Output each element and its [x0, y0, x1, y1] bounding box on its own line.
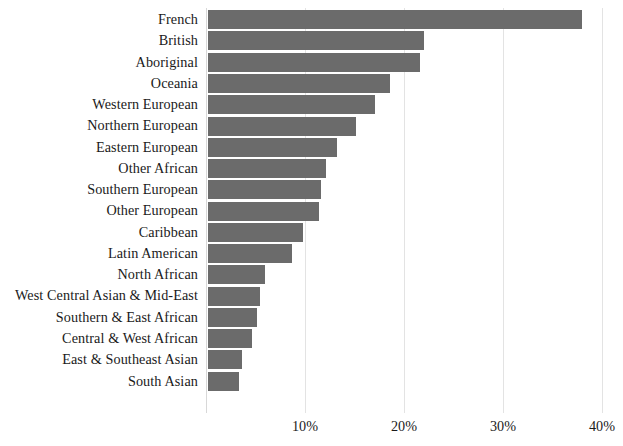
bar[interactable] — [208, 95, 375, 114]
category-label: Southern European — [87, 179, 206, 200]
category-label: East & Southeast Asian — [62, 349, 206, 370]
bar-row: Latin American — [0, 243, 623, 264]
bar[interactable] — [208, 308, 257, 327]
bar-row: West Central Asian & Mid-East — [0, 285, 623, 306]
category-label: Other European — [106, 200, 206, 221]
bar[interactable] — [208, 265, 265, 284]
bar-row: British — [0, 30, 623, 51]
bar-row: Other European — [0, 200, 623, 221]
bar-row: Caribbean — [0, 222, 623, 243]
category-label: Aboriginal — [136, 52, 206, 73]
category-label: North African — [118, 264, 207, 285]
category-label: Oceania — [151, 73, 206, 94]
bar-row: North African — [0, 264, 623, 285]
bar-row: Southern & East African — [0, 307, 623, 328]
category-label: Caribbean — [139, 222, 206, 243]
bar-row: Other African — [0, 158, 623, 179]
category-label: Eastern European — [96, 137, 206, 158]
bar[interactable] — [208, 117, 356, 136]
bar-row: Northern European — [0, 115, 623, 136]
category-label: British — [159, 30, 206, 51]
bar-row: South Asian — [0, 371, 623, 392]
category-label: West Central Asian & Mid-East — [15, 285, 206, 306]
x-tick-label: 20% — [391, 418, 417, 435]
bar[interactable] — [208, 244, 292, 263]
bar[interactable] — [208, 223, 303, 242]
bar[interactable] — [208, 287, 260, 306]
bar-row: Eastern European — [0, 137, 623, 158]
bar-rows-group: FrenchBritishAboriginalOceaniaWestern Eu… — [0, 9, 623, 392]
x-tick-label: 40% — [589, 418, 615, 435]
bar[interactable] — [208, 202, 319, 221]
bar-row: East & Southeast Asian — [0, 349, 623, 370]
bar-row: Western European — [0, 94, 623, 115]
bar[interactable] — [208, 350, 242, 369]
bar[interactable] — [208, 159, 326, 178]
x-tick-label: 30% — [490, 418, 516, 435]
bar[interactable] — [208, 10, 582, 29]
category-label: Western European — [92, 94, 206, 115]
bar-row: Central & West African — [0, 328, 623, 349]
bar[interactable] — [208, 372, 239, 391]
bar[interactable] — [208, 138, 337, 157]
x-axis-tick-labels: 10%20%30%40% — [0, 418, 623, 444]
bar[interactable] — [208, 329, 252, 348]
category-label: Southern & East African — [56, 307, 206, 328]
bar[interactable] — [208, 53, 420, 72]
bar-row: Southern European — [0, 179, 623, 200]
category-label: Other African — [118, 158, 206, 179]
bar-row: Aboriginal — [0, 52, 623, 73]
horizontal-bar-chart: FrenchBritishAboriginalOceaniaWestern Eu… — [0, 0, 623, 446]
x-tick-label: 10% — [292, 418, 318, 435]
bar-row: French — [0, 9, 623, 30]
bar[interactable] — [208, 74, 390, 93]
bar[interactable] — [208, 180, 321, 199]
category-label: French — [158, 9, 206, 30]
category-label: South Asian — [128, 371, 206, 392]
bar[interactable] — [208, 31, 424, 50]
bar-row: Oceania — [0, 73, 623, 94]
category-label: Northern European — [87, 115, 206, 136]
category-label: Latin American — [108, 243, 206, 264]
category-label: Central & West African — [62, 328, 206, 349]
